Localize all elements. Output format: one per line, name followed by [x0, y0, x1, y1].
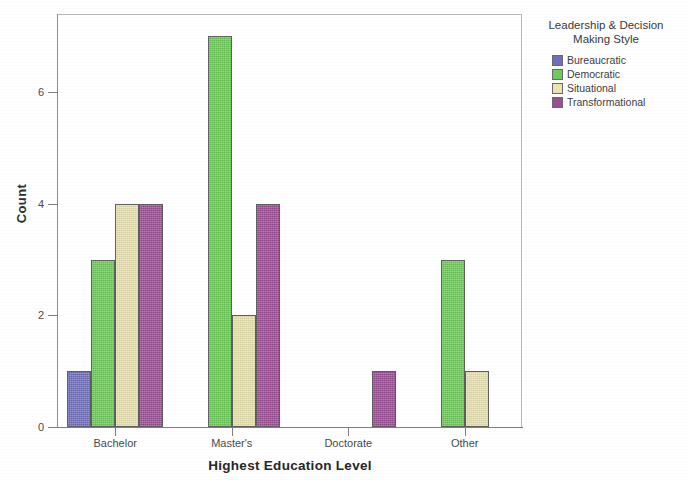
legend-item: Democratic	[552, 68, 682, 80]
y-axis-tick-label: 6	[22, 86, 44, 98]
legend-title-line-2: Making Style	[530, 32, 682, 46]
legend-items: BureaucraticDemocraticSituationalTransfo…	[552, 54, 682, 108]
x-axis-title: Highest Education Level	[57, 458, 523, 473]
y-axis-line	[57, 14, 58, 428]
bar	[67, 371, 91, 427]
y-axis-tick-label: 0	[22, 421, 44, 433]
x-axis-tick	[232, 428, 233, 436]
bar	[232, 315, 256, 427]
bar	[441, 260, 465, 427]
y-axis-tick-label: 4	[22, 198, 44, 210]
bar	[115, 204, 139, 427]
x-axis-tick	[465, 428, 466, 436]
x-axis-tick-label: Other	[405, 437, 525, 449]
legend-item: Situational	[552, 82, 682, 94]
x-axis-line	[57, 427, 523, 428]
y-axis-tick	[48, 204, 58, 205]
y-axis-tick	[48, 315, 58, 316]
legend-swatch-icon	[552, 69, 563, 80]
legend-item-label: Situational	[567, 82, 616, 94]
y-axis-tick	[48, 427, 58, 428]
x-axis-tick	[115, 428, 116, 436]
bar	[91, 260, 115, 427]
x-axis-tick-label: Bachelor	[55, 437, 175, 449]
legend-swatch-icon	[552, 83, 563, 94]
y-axis-tick	[48, 92, 58, 93]
bar	[139, 204, 163, 427]
legend-swatch-icon	[552, 55, 563, 66]
legend: Leadership & Decision Making Style Burea…	[530, 18, 682, 110]
legend-title-line-1: Leadership & Decision	[530, 18, 682, 32]
legend-item: Bureaucratic	[552, 54, 682, 66]
x-axis-tick-label: Master's	[172, 437, 292, 449]
bar-chart: Count 0246 BachelorMaster'sDoctorateOthe…	[0, 0, 687, 480]
legend-item-label: Democratic	[567, 68, 620, 80]
legend-item-label: Bureaucratic	[567, 54, 626, 66]
x-axis-tick	[348, 428, 349, 436]
bar	[256, 204, 280, 427]
bar	[208, 36, 232, 427]
x-axis-tick-label: Doctorate	[288, 437, 408, 449]
bar	[372, 371, 396, 427]
legend-item: Transformational	[552, 96, 682, 108]
legend-title: Leadership & Decision Making Style	[530, 18, 682, 46]
legend-item-label: Transformational	[567, 96, 645, 108]
legend-swatch-icon	[552, 97, 563, 108]
y-axis-tick-label: 2	[22, 309, 44, 321]
bar	[465, 371, 489, 427]
